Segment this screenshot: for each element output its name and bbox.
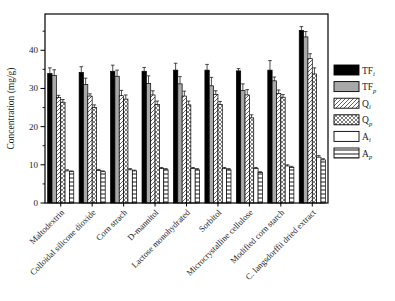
y-tick-label: 10 [29,160,39,170]
legend: TFiTFpQiQpAiAp [334,65,377,160]
bar [304,37,308,203]
y-tick-label: 40 [29,45,39,55]
legend-swatch [334,148,359,158]
bar [128,170,132,203]
error-bar [183,91,187,96]
legend-entry: TFp [334,82,377,94]
bar [285,166,289,203]
bar [101,172,105,203]
error-bar [308,54,312,59]
bar [195,170,199,203]
bar [321,160,325,203]
bar [124,99,128,203]
x-category-label: Modified corn starch [228,207,287,266]
error-bar [151,91,155,95]
error-bar [147,76,151,84]
error-bar [174,63,178,70]
x-category-label: Lactose monohydrated [129,207,192,270]
bar [317,157,321,203]
bar [178,84,182,203]
legend-entry: Ap [334,148,373,160]
bar [281,97,285,203]
bar [222,169,226,203]
bar [249,118,253,203]
legend-entry: Ai [334,131,371,143]
bar [119,96,123,203]
chart-figure: 010203040MaltodextrinColloidal silicone … [0,0,395,301]
bar [312,74,316,203]
legend-label: Qi [362,99,371,111]
error-bar [187,101,191,105]
bar [48,74,52,203]
legend-swatch [334,82,359,92]
error-bar [277,90,281,93]
bar [187,105,191,203]
error-bar [84,78,88,84]
error-bar [48,68,52,74]
error-bar [241,84,245,90]
legend-entry: TFi [334,65,375,77]
y-axis-title: Concentration (mg/g) [6,67,17,149]
legend-label: Qp [362,115,373,127]
error-bar [115,70,119,76]
bar [276,93,280,203]
error-bar [142,67,146,71]
legend-swatch [334,131,359,141]
bar [52,75,56,203]
error-bar [111,65,115,71]
error-bar [304,32,308,37]
legend-label: Ai [362,132,371,144]
bar [299,30,303,203]
bar [92,108,96,203]
legend-swatch [334,115,359,125]
error-bar [218,101,222,104]
legend-swatch [334,98,359,108]
bar [79,72,83,203]
y-tick-label: 0 [34,198,39,208]
bar [97,171,101,203]
bar [245,95,249,203]
error-bar [61,100,65,103]
bar [56,98,60,203]
error-bar [313,68,317,74]
y-tick-label: 20 [29,122,39,132]
legend-entry: Qp [334,115,373,127]
error-bar [205,64,209,70]
bar [182,96,186,203]
bar [272,81,276,203]
bar [132,171,136,203]
bar [69,172,73,203]
bar [164,170,168,203]
bar [83,85,87,203]
error-bar [79,67,83,73]
bars-layer [48,27,326,203]
bar [218,104,222,203]
error-bar [245,90,249,95]
y-tick-label: 30 [29,83,39,93]
error-bar [281,95,285,98]
error-bar [52,70,56,76]
legend-label: TFp [362,82,377,94]
x-category-label: Corn strach [94,207,130,243]
bar [227,170,231,203]
bar [142,71,146,203]
error-bar [300,27,304,31]
bar [254,169,258,203]
bar [258,172,262,203]
error-bar [120,90,124,95]
error-bar [250,115,254,118]
bar [173,70,177,203]
bar [65,171,69,203]
x-category-label: Sorbitol [197,207,224,234]
bar [111,71,115,203]
bar [146,83,150,203]
error-bar [155,101,159,104]
error-bar [273,77,277,81]
legend-swatch [334,65,359,75]
concentration-bar-chart: 010203040MaltodextrinColloidal silicone … [0,0,395,301]
bar [191,169,195,203]
bar [308,59,312,203]
error-bar [268,61,272,71]
bar [151,95,155,203]
bar [88,96,92,203]
